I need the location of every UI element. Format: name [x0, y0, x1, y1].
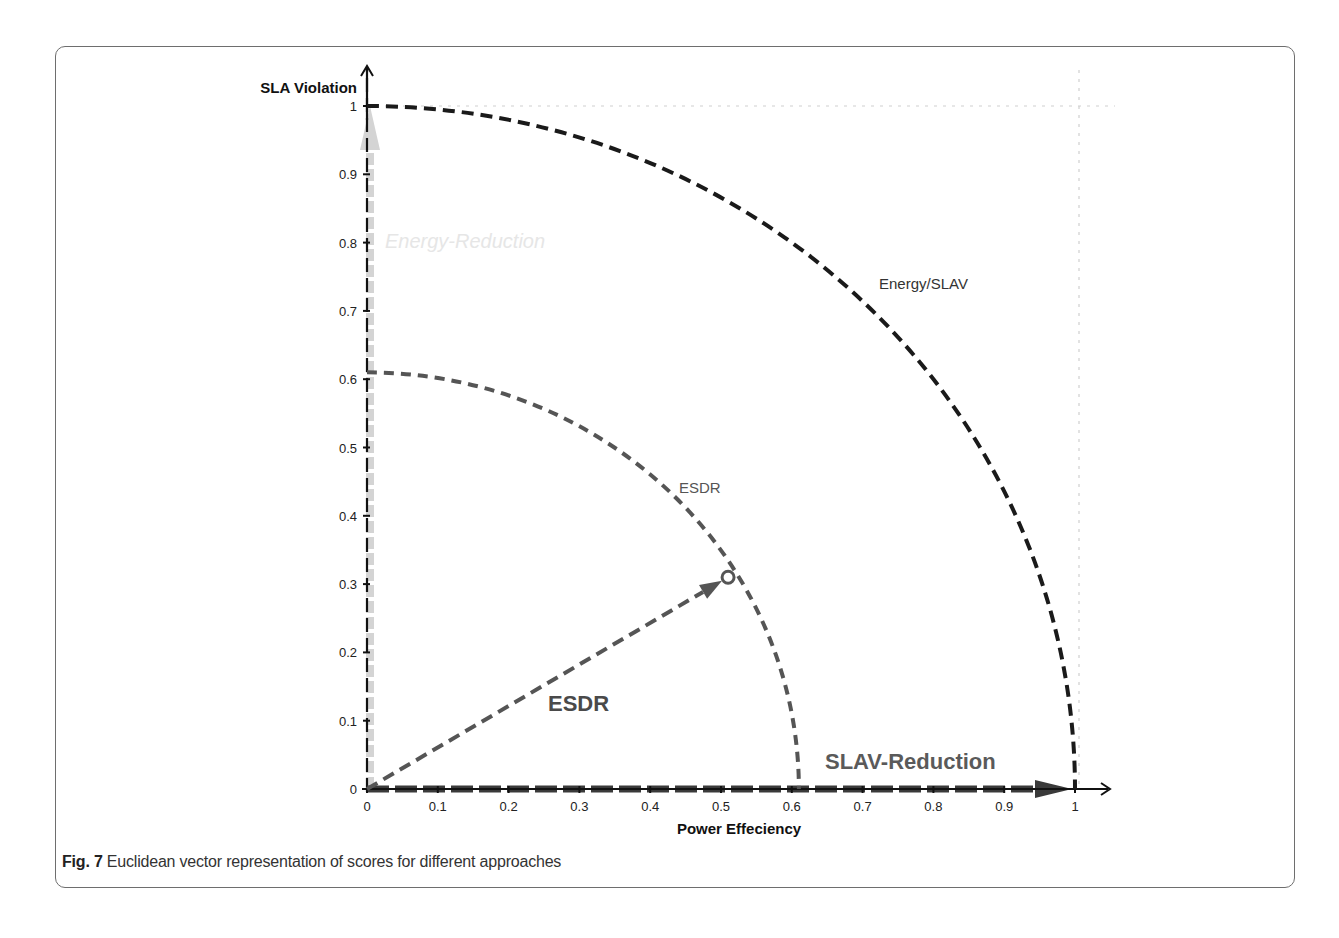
x-tick-label: 0.4	[641, 799, 659, 814]
x-tick-label: 0.8	[924, 799, 942, 814]
energy-slav-label: Energy/SLAV	[879, 275, 968, 292]
x-tick-label: 0.5	[712, 799, 730, 814]
y-tick-label: 0.3	[339, 577, 357, 592]
slav-reduction-label: SLAV-Reduction	[825, 749, 996, 774]
euclidean-vector-chart: 00.10.20.30.40.50.60.70.80.91 00.10.20.3…	[0, 0, 1339, 938]
y-axis-label: SLA Violation	[260, 79, 357, 96]
y-tick-label: 0.8	[339, 236, 357, 251]
esdr-point	[722, 571, 734, 583]
x-tick-label: 0.7	[854, 799, 872, 814]
y-tick-label: 0.1	[339, 714, 357, 729]
y-tick-label: 0.5	[339, 441, 357, 456]
y-tick-label: 0.2	[339, 645, 357, 660]
y-tick-label: 1	[350, 99, 357, 114]
caption-text: Euclidean vector representation of score…	[103, 853, 562, 870]
esdr-vector	[367, 571, 734, 789]
y-tick-label: 0.4	[339, 509, 357, 524]
x-axis-label: Power Effeciency	[677, 820, 802, 837]
esdr-arc-label: ESDR	[679, 479, 721, 496]
x-tick-label: 1	[1071, 799, 1078, 814]
x-tick-label: 0.2	[500, 799, 518, 814]
y-tick-label: 0	[350, 782, 357, 797]
x-tick-label: 0	[363, 799, 370, 814]
energy-reduction-label: Energy-Reduction	[385, 230, 545, 252]
y-tick-label: 0.7	[339, 304, 357, 319]
x-tick-label: 0.6	[783, 799, 801, 814]
energy-slav-arc	[367, 106, 1075, 789]
y-tick-label: 0.9	[339, 167, 357, 182]
x-tick-label: 0.3	[570, 799, 588, 814]
esdr-vector-label: ESDR	[548, 691, 609, 716]
figure-caption: Fig. 7 Euclidean vector representation o…	[62, 853, 561, 871]
x-tick-label: 0.1	[429, 799, 447, 814]
x-tick-label: 0.9	[995, 799, 1013, 814]
figure-number: Fig. 7	[62, 853, 103, 870]
y-tick-label: 0.6	[339, 372, 357, 387]
